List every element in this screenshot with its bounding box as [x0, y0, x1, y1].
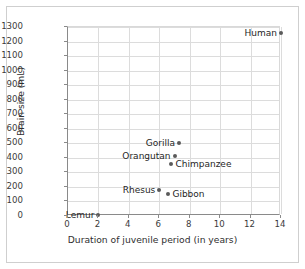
gridline-horizontal — [68, 85, 279, 86]
x-axis-tick-mark — [97, 215, 98, 218]
data-point-label: Human — [245, 28, 277, 37]
gridline-vertical — [220, 27, 221, 214]
data-point-label: Rhesus — [123, 185, 156, 194]
x-axis-tick-label: 4 — [113, 220, 143, 229]
data-point-label: Chimpanzee — [175, 159, 231, 168]
y-axis-tick-mark — [64, 142, 67, 143]
gridline-vertical — [98, 27, 99, 214]
data-point-label: Lemur — [66, 210, 95, 219]
y-axis-tick-mark — [64, 99, 67, 100]
x-axis-tick-label: 6 — [143, 220, 173, 229]
y-axis-tick-label: 1300 — [0, 22, 23, 31]
y-axis-tick-mark — [64, 157, 67, 158]
x-axis-tick-label: 12 — [235, 220, 265, 229]
y-axis-tick-label: 200 — [0, 182, 23, 191]
x-axis-tick-mark — [219, 215, 220, 218]
data-point — [157, 188, 161, 192]
x-axis-tick-label: 0 — [52, 220, 82, 229]
y-axis-tick-mark — [64, 186, 67, 187]
y-axis-tick-mark — [64, 200, 67, 201]
y-axis-tick-mark — [64, 41, 67, 42]
y-axis-tick-label: 0 — [0, 211, 23, 220]
data-point — [173, 154, 177, 158]
y-axis-tick-mark — [64, 113, 67, 114]
data-point-label: Gibbon — [172, 190, 204, 199]
gridline-horizontal — [68, 172, 279, 173]
plot-area: LemurRhesusGibbonChimpanzeeOrangutanGori… — [67, 26, 280, 215]
gridline-horizontal — [68, 42, 279, 43]
data-point — [166, 192, 170, 196]
x-axis-tick-mark — [67, 215, 68, 218]
scatter-plot-figure: LemurRhesusGibbonChimpanzeeOrangutanGori… — [0, 0, 305, 269]
y-axis-tick-label: 100 — [0, 196, 23, 205]
gridline-horizontal — [68, 100, 279, 101]
y-axis-tick-mark — [64, 55, 67, 56]
x-axis-tick-label: 8 — [174, 220, 204, 229]
x-axis-label: Duration of juvenile period (in years) — [0, 234, 305, 245]
data-point-label: Gorilla — [146, 138, 175, 147]
gridline-horizontal — [68, 129, 279, 130]
x-axis-tick-mark — [158, 215, 159, 218]
gridline-horizontal — [68, 114, 279, 115]
data-point — [177, 141, 181, 145]
gridline-vertical — [190, 27, 191, 214]
gridline-vertical — [159, 27, 160, 214]
y-axis-tick-mark — [64, 70, 67, 71]
gridline-vertical — [251, 27, 252, 214]
y-axis-label: Brain size (mL) — [15, 42, 26, 162]
gridline-horizontal — [68, 56, 279, 57]
x-axis-tick-label: 2 — [82, 220, 112, 229]
data-point-label: Orangutan — [122, 152, 170, 161]
gridline-horizontal — [68, 71, 279, 72]
y-axis-tick-mark — [64, 128, 67, 129]
y-axis-tick-mark — [64, 171, 67, 172]
x-axis-tick-mark — [189, 215, 190, 218]
y-axis-tick-mark — [64, 84, 67, 85]
x-axis-tick-label: 14 — [265, 220, 295, 229]
x-axis-tick-mark — [128, 215, 129, 218]
data-point — [169, 162, 173, 166]
y-axis-tick-label: 300 — [0, 167, 23, 176]
gridline-horizontal — [68, 201, 279, 202]
data-point — [279, 31, 283, 35]
x-axis-tick-label: 10 — [204, 220, 234, 229]
y-axis-tick-mark — [64, 26, 67, 27]
x-axis-tick-mark — [280, 215, 281, 218]
x-axis-tick-mark — [250, 215, 251, 218]
gridline-vertical — [281, 27, 282, 214]
